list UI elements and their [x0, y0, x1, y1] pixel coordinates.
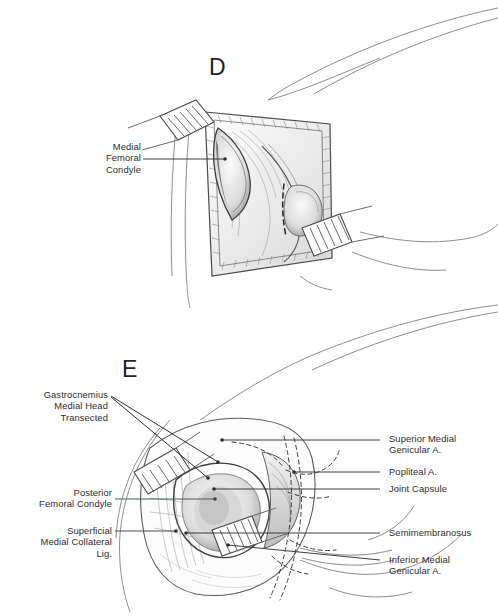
panel-letter-d: D [209, 56, 226, 79]
label-joint-capsule: Joint Capsule [389, 483, 497, 494]
label-posterior-femoral-condyle: Posterior Femoral Condyle [2, 487, 112, 510]
illustration-canvas [0, 0, 498, 615]
label-superficial-medial-collateral-lig: Superficial Medial Collateral Lig. [2, 525, 112, 559]
label-popliteal-artery: Popliteal A. [389, 466, 497, 477]
label-medial-femoral-condyle: Medial Femoral Condyle [33, 141, 141, 175]
label-superior-medial-genicular-artery: Superior Medial Genicular A. [389, 433, 497, 456]
anatomical-figure: D E Medial Femoral Condyle Gastrocnemius… [0, 0, 498, 615]
panel-letter-e: E [122, 358, 137, 381]
panel-d-artwork [128, 8, 498, 308]
label-inferior-medial-genicular-artery: Inferior Medial Genicular A. [389, 554, 497, 577]
label-gastrocnemius-medial-head-transected: Gastrocnemius Medial Head Transected [2, 389, 108, 423]
label-semimembranosus: Semimembranosus [389, 527, 498, 538]
